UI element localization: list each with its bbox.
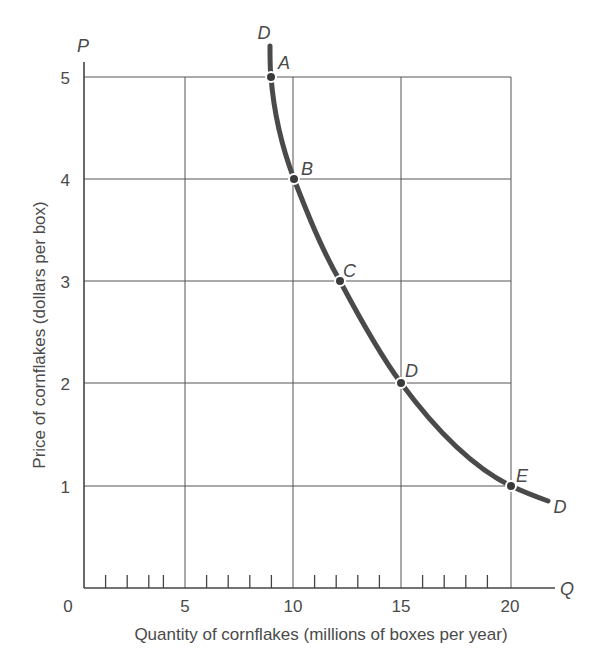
x-tick-15: 15 (392, 597, 411, 616)
y-tick-5: 5 (61, 69, 70, 88)
curve-label-top: D (258, 23, 271, 43)
x-axis-title: Quantity of cornflakes (millions of boxe… (134, 625, 507, 644)
point-d: D (396, 361, 418, 388)
y-tick-1: 1 (61, 478, 70, 497)
x-tick-5: 5 (180, 597, 189, 616)
x-tick-0: 0 (63, 597, 72, 616)
demand-curve (270, 46, 548, 501)
svg-text:E: E (516, 466, 529, 486)
svg-text:A: A (277, 53, 290, 73)
x-tick-20: 20 (501, 597, 520, 616)
y-axis-title: Price of cornflakes (dollars per box) (30, 201, 49, 468)
x-minor-ticks (106, 575, 488, 588)
x-axis-symbol: Q (560, 579, 574, 599)
y-tick-2: 2 (61, 375, 70, 394)
svg-text:C: C (343, 261, 357, 281)
x-tick-10: 10 (284, 597, 303, 616)
svg-text:B: B (301, 159, 313, 179)
grid (84, 77, 511, 588)
demand-curve-chart: P Q 5 4 3 2 1 0 5 10 15 20 Quantity of c… (0, 0, 591, 660)
y-tick-4: 4 (61, 171, 70, 190)
y-axis-symbol: P (77, 36, 89, 56)
curve-label-bottom: D (554, 497, 567, 517)
y-tick-3: 3 (61, 273, 70, 292)
svg-text:D: D (405, 361, 418, 381)
